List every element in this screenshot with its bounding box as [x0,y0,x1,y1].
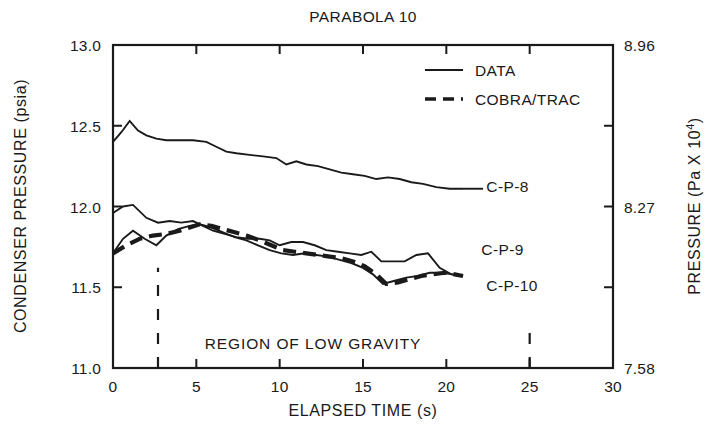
chart-annotations: REGION OF LOW GRAVITYC-P-8C-P-9C-P-10 [205,178,538,352]
y-tick-label-left-13.0: 13.0 [70,37,101,54]
annotation-region-of-low-gravity: REGION OF LOW GRAVITY [205,335,422,352]
y-axis-label-right-close: ) [686,117,703,123]
y-tick-label-right-8.27: 8.27 [624,199,655,216]
y-tick-label-left-11.0: 11.0 [71,360,101,377]
y-tick-label-right-8.96: 8.96 [624,37,655,54]
y-axis-label-left: CONDENSER PRESSURE (psia) [12,79,29,333]
y-tick-label-left-12.0: 12.0 [70,199,101,216]
y-axis-ticks-right [604,126,613,288]
y-axis-label-right: PRESSURE (Pa X 10 [686,130,703,295]
series-line-c-p-8 [113,121,463,189]
y-tick-label-right-7.58: 7.58 [624,360,655,377]
y-tick-label-left-11.5: 11.5 [71,279,101,296]
data-series-group [113,121,483,284]
y-axis-ticks-left [113,126,122,288]
y-axis-label-right-exponent: 4 [684,123,696,130]
annotation-c-p-10: C-P-10 [486,277,538,294]
x-tick-label-25: 25 [521,378,539,395]
y-axis-tick-labels-right: 7.588.278.96 [624,37,655,377]
series-line-c-p-10 [113,224,463,284]
annotation-c-p-8: C-P-8 [486,178,528,195]
y-tick-label-left-12.5: 12.5 [70,118,101,135]
x-axis-label: ELAPSED TIME (s) [289,402,438,419]
x-tick-label-30: 30 [604,378,622,395]
chart-figure: PARABOLA 10 051015202530 11.011.512.012.… [0,0,724,446]
legend-label-cobra-trac: COBRA/TRAC [475,91,581,108]
x-tick-label-10: 10 [271,378,289,395]
annotation-c-p-9: C-P-9 [481,241,523,258]
chart-title-group: PARABOLA 10 [309,8,417,25]
legend-label-data: DATA [475,62,516,79]
low-gravity-region-markers [158,268,530,368]
line-chart: PARABOLA 10 051015202530 11.011.512.012.… [0,0,724,446]
y-axis-label-right-group: PRESSURE (Pa X 104) [684,117,703,295]
x-tick-label-15: 15 [354,378,372,395]
chart-title: PARABOLA 10 [309,8,417,25]
x-tick-label-5: 5 [192,378,201,395]
x-tick-label-0: 0 [109,378,118,395]
series-line-c-p-9 [113,205,463,276]
y-axis-tick-labels-left: 11.011.512.012.513.0 [70,37,101,377]
chart-legend: DATACOBRA/TRAC [425,62,581,108]
x-axis-tick-labels: 051015202530 [109,378,622,395]
svg-text:PRESSURE (Pa X 104): PRESSURE (Pa X 104) [684,117,703,295]
x-tick-label-20: 20 [438,378,456,395]
